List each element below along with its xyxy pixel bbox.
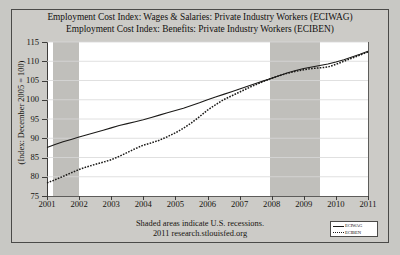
x-tick-label-2011: 2011 xyxy=(351,200,385,209)
x-tick-label-2005: 2005 xyxy=(158,200,192,209)
chart-legend[interactable]: ECIWAG ECIBEN xyxy=(330,221,378,237)
x-tick-label-2002: 2002 xyxy=(62,200,96,209)
x-tick-label-2004: 2004 xyxy=(126,200,160,209)
y-tick-95 xyxy=(42,119,47,120)
legend-label-eciben: ECIBEN xyxy=(344,230,361,236)
x-tick-label-2009: 2009 xyxy=(287,200,321,209)
x-tick-label-2001: 2001 xyxy=(30,200,64,209)
x-tick-label-2008: 2008 xyxy=(255,200,289,209)
legend-swatch-solid-icon xyxy=(333,224,344,229)
y-tick-100 xyxy=(42,100,47,101)
y-axis-title: (Index: December 2005 = 100) xyxy=(17,48,26,178)
y-tick-115 xyxy=(42,42,47,43)
series-lines xyxy=(47,51,368,183)
y-tick-85 xyxy=(42,158,47,159)
y-tick-110 xyxy=(42,61,47,62)
legend-label-eciwag: ECIWAG xyxy=(344,223,362,229)
chart-screenshot: Employment Cost Index: Wages & Salaries:… xyxy=(0,0,400,255)
series-canvas xyxy=(0,0,400,255)
x-tick-label-2006: 2006 xyxy=(191,200,225,209)
series-line-eciben xyxy=(47,52,368,183)
y-tick-80 xyxy=(42,177,47,178)
plot-area: 7580859095100105110115 20012002200320042… xyxy=(0,0,400,255)
x-tick-label-2003: 2003 xyxy=(94,200,128,209)
y-tick-105 xyxy=(42,81,47,82)
x-tick-label-2010: 2010 xyxy=(319,200,353,209)
legend-swatch-dotted-icon xyxy=(333,230,344,235)
y-tick-label-75: 75 xyxy=(13,192,39,201)
y-tick-90 xyxy=(42,138,47,139)
x-tick-label-2007: 2007 xyxy=(223,200,257,209)
y-tick-label-115: 115 xyxy=(13,38,39,47)
legend-entry-eciben[interactable]: ECIBEN xyxy=(333,230,375,237)
